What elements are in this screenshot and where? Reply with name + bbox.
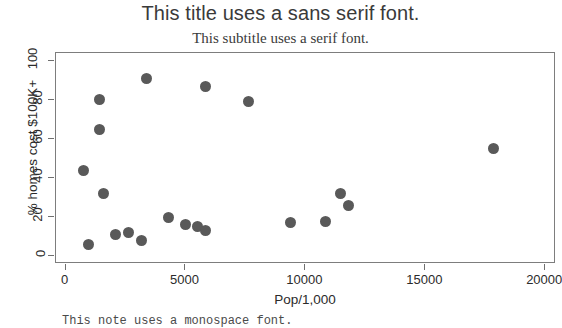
y-tick-mark	[48, 99, 54, 100]
x-axis-title: Pop/1,000	[55, 292, 555, 307]
x-tick-label: 15000	[406, 272, 442, 287]
x-tick-label: 20000	[526, 272, 562, 287]
data-point	[163, 212, 174, 223]
x-tick-mark	[184, 264, 185, 270]
data-point	[83, 239, 94, 250]
chart-title: This title uses a sans serif font.	[0, 2, 561, 25]
data-point	[94, 94, 105, 105]
data-point	[488, 143, 499, 154]
y-tick-label: 0	[0, 246, 44, 261]
x-tick-label: 5000	[170, 272, 199, 287]
y-tick-mark	[48, 138, 54, 139]
data-point	[200, 225, 211, 236]
data-point	[141, 73, 152, 84]
x-tick-mark	[65, 264, 66, 270]
y-tick-mark	[48, 216, 54, 217]
y-axis-title: % homes cost $100K+	[25, 48, 40, 248]
data-point	[94, 124, 105, 135]
data-point	[343, 200, 354, 211]
x-tick-mark	[424, 264, 425, 270]
data-point	[180, 219, 191, 230]
y-tick-mark	[48, 177, 54, 178]
data-point	[285, 217, 296, 228]
chart-caption: This note uses a monospace font.	[62, 314, 292, 328]
data-point	[320, 216, 331, 227]
y-tick-mark	[48, 60, 54, 61]
data-point	[110, 229, 121, 240]
x-tick-mark	[304, 264, 305, 270]
data-point	[98, 188, 109, 199]
y-tick-mark	[48, 255, 54, 256]
data-point	[335, 188, 346, 199]
data-point	[243, 96, 254, 107]
data-point	[123, 227, 134, 238]
x-tick-label: 0	[61, 272, 68, 287]
chart-subtitle: This subtitle uses a serif font.	[0, 30, 561, 47]
x-tick-mark	[544, 264, 545, 270]
data-point	[200, 81, 211, 92]
x-tick-label: 10000	[286, 272, 322, 287]
data-point	[136, 235, 147, 246]
plot-area	[55, 52, 555, 263]
data-point	[78, 165, 89, 176]
